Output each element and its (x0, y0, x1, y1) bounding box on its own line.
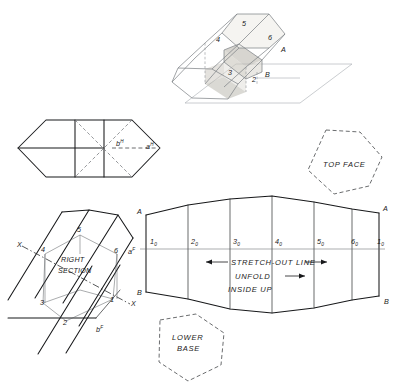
top-view-hexagon: bH aH (18, 120, 160, 177)
pictorial-label-A: A (280, 45, 286, 54)
dev-point-3: 30 (233, 237, 240, 247)
rs-label-2: 2 (62, 318, 67, 327)
pictorial-label-4: 4 (216, 35, 220, 44)
rs-label-1: 1 (110, 295, 114, 304)
rs-label-5: 5 (77, 225, 82, 234)
rs-chord-1 (43, 290, 113, 303)
lower-base-label-line2: BASE (177, 344, 200, 353)
dev-label-A-right: A (382, 204, 388, 213)
dev-unfold-caption: UNFOLD (235, 272, 305, 281)
top-view-label-b: bH (116, 139, 124, 148)
dev-point-4: 40 (275, 237, 282, 247)
rs-axis-label-right: X (130, 299, 137, 308)
top-view-label-a: aH (146, 142, 154, 151)
rs-label-3: 3 (40, 298, 44, 307)
dev-bottom-profile (146, 292, 379, 313)
rs-label-b-front: bF (96, 325, 104, 334)
dev-point-6: 60 (351, 237, 358, 247)
lower-base-pattern: LOWER BASE (159, 314, 224, 381)
pictorial-label-3: 3 (228, 68, 232, 77)
dev-label-B-right: B (384, 297, 389, 306)
dev-point-1-right: 10 (377, 237, 384, 247)
top-face-label: TOP FACE (323, 160, 366, 169)
dev-label-B-left: B (137, 288, 142, 297)
dev-label-A-left: A (136, 207, 142, 216)
rs-label-6: 6 (114, 246, 118, 255)
dev-point-2: 20 (190, 237, 198, 247)
rs-label-a-front: aF (128, 247, 136, 256)
dev-top-profile (146, 196, 379, 215)
stretch-out-development: 10 20 30 40 50 60 10 A B A B STRETCH-OUT… (136, 196, 389, 313)
pictorial-label-B: B (265, 70, 270, 79)
rs-edge-5 (66, 265, 120, 353)
rs-caption-line1: RIGHT (61, 255, 85, 264)
right-section-vertex-labels: 4 5 6 3 2 1 (40, 225, 118, 327)
rs-axis-label-left: X (16, 240, 23, 249)
technical-drawing-canvas: 4 5 6 A 3 2 B bH aH (0, 0, 403, 389)
rs-caption-line2: SECTION (58, 266, 92, 275)
dev-point-5: 50 (317, 237, 324, 247)
dev-inside-up-label: INSIDE UP (228, 285, 273, 294)
pictorial-view: 4 5 6 A 3 2 B (172, 14, 352, 103)
right-section-view: 4 5 6 3 2 1 X X RIGHT SECTION aF bF (8, 210, 137, 354)
rs-edge-4 (79, 238, 133, 326)
pictorial-label-6: 6 (268, 33, 272, 42)
dev-stretch-point-labels: 10 20 30 40 50 60 10 (150, 237, 384, 247)
rs-edge-1 (8, 212, 62, 300)
dev-stretch-out-caption: STRETCH-OUT LINE (206, 258, 327, 267)
dev-stretch-out-label: STRETCH-OUT LINE (231, 258, 316, 267)
lower-base-label-line1: LOWER (172, 333, 203, 342)
pictorial-label-2: 2 (251, 75, 256, 84)
dev-unfold-label: UNFOLD (235, 272, 270, 281)
rs-top-boundary (62, 210, 133, 238)
rs-base-line-2 (96, 290, 120, 318)
dev-point-1-left: 10 (150, 237, 157, 247)
top-face-pattern: TOP FACE (308, 130, 382, 194)
rs-label-4: 4 (41, 245, 45, 254)
